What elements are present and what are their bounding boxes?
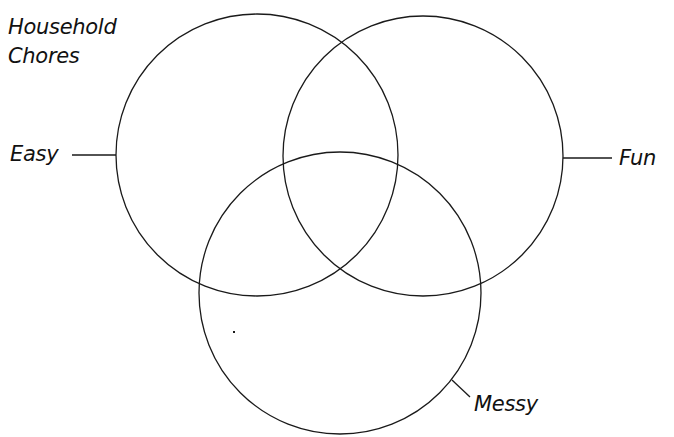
title-line-2: Chores <box>8 42 148 71</box>
easy-circle <box>116 14 398 296</box>
title-line-1: Household <box>8 13 148 42</box>
messy-circle <box>199 152 481 434</box>
fun-circle <box>283 16 563 296</box>
diagram-title: Household Chores <box>8 13 148 71</box>
fun-label: Fun <box>619 144 656 173</box>
stray-dot <box>233 331 235 333</box>
messy-label: Messy <box>474 390 538 419</box>
messy-leader-line <box>452 380 470 397</box>
easy-label: Easy <box>10 140 58 169</box>
